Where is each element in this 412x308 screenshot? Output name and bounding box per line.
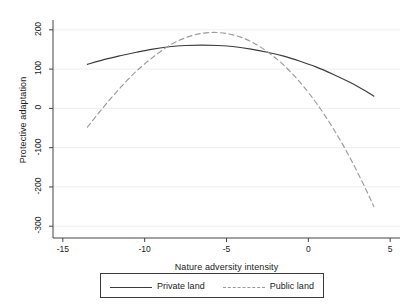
legend-label-public: Public land <box>270 281 314 291</box>
x-tick-marks <box>63 238 390 242</box>
legend-swatch-solid-line <box>110 287 152 288</box>
chart-figure: Protective adaptation Nature adversity i… <box>0 0 412 308</box>
series-line <box>87 45 373 96</box>
x-tick-label: 0 <box>293 244 323 254</box>
legend-swatch-dashed-line <box>223 287 265 288</box>
y-tick-marks <box>49 30 53 226</box>
x-tick-label: -10 <box>130 244 160 254</box>
y-tick-label: -100 <box>33 132 43 162</box>
series-line <box>87 32 373 206</box>
y-tick-label: -300 <box>33 210 43 240</box>
x-tick-label: -5 <box>212 244 242 254</box>
y-tick-label: 0 <box>33 92 43 122</box>
x-tick-label: 5 <box>375 244 405 254</box>
y-axis-title: Protective adaptation <box>18 50 28 190</box>
y-tick-label: 200 <box>33 14 43 44</box>
plot-frame <box>53 20 400 238</box>
series-paths <box>87 32 373 206</box>
y-tick-label: -200 <box>33 171 43 201</box>
x-tick-label: -15 <box>48 244 78 254</box>
legend-entry-public: Public land <box>223 281 314 291</box>
legend-entry-private: Private land <box>110 281 205 291</box>
chart-legend: Private land Public land <box>100 273 324 298</box>
x-axis-title: Nature adversity intensity <box>53 262 400 272</box>
legend-label-private: Private land <box>157 281 205 291</box>
y-tick-label: 100 <box>33 53 43 83</box>
